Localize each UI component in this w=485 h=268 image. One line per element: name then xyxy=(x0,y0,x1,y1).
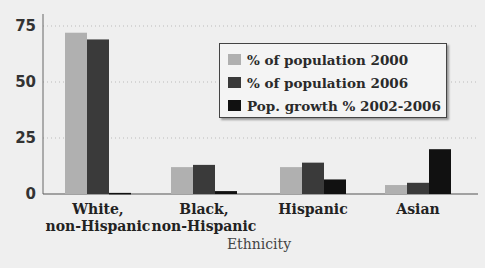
bar xyxy=(385,185,407,194)
bar xyxy=(215,191,237,194)
legend-swatch-pop-2000 xyxy=(228,54,241,65)
x-category-label: non-Hispanic xyxy=(46,218,151,234)
x-category-label: Black, xyxy=(179,201,228,217)
chart-legend: % of population 2000 % of population 200… xyxy=(219,43,447,118)
bar xyxy=(429,149,451,194)
bar xyxy=(171,167,193,194)
y-tick-label: 75 xyxy=(15,17,36,35)
x-axis-title: Ethnicity xyxy=(227,236,291,252)
bar xyxy=(109,193,131,195)
bar xyxy=(324,179,346,194)
bar xyxy=(193,165,215,194)
bar xyxy=(407,183,429,194)
legend-item-pop-2000: % of population 2000 xyxy=(228,48,446,71)
bar xyxy=(280,167,302,194)
x-category-label: Asian xyxy=(395,201,439,217)
legend-swatch-pop-growth xyxy=(228,100,241,111)
y-tick-label: 50 xyxy=(15,73,36,91)
bar xyxy=(65,33,87,194)
y-tick-label: 25 xyxy=(15,129,36,147)
legend-item-pop-2006: % of population 2006 xyxy=(228,71,446,94)
legend-label: % of population 2006 xyxy=(247,75,408,91)
y-tick-label: 0 xyxy=(26,185,36,203)
legend-swatch-pop-2006 xyxy=(228,77,241,88)
bar xyxy=(302,163,324,194)
x-category-label: White, xyxy=(71,201,123,217)
legend-item-pop-growth: Pop. growth % 2002-2006 xyxy=(228,94,446,117)
x-category-label: non-Hispanic xyxy=(152,218,257,234)
bar-chart: 0255075White,non-HispanicBlack,non-Hispa… xyxy=(0,0,485,268)
x-category-label: Hispanic xyxy=(278,201,347,217)
bar xyxy=(87,39,109,194)
legend-label: % of population 2000 xyxy=(247,52,408,68)
legend-label: Pop. growth % 2002-2006 xyxy=(247,98,441,114)
